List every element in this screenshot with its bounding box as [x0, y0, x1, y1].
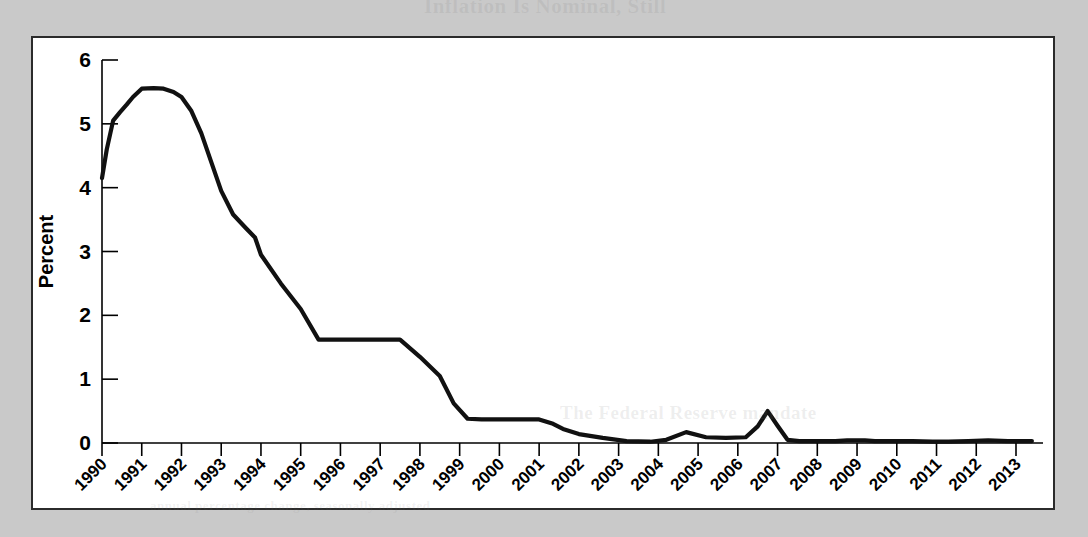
x-tick-label: 2000 — [468, 454, 508, 494]
y-axis: 0123456 — [79, 48, 118, 454]
x-tick-label: 1991 — [110, 454, 150, 494]
x-tick-label: 1998 — [389, 454, 429, 494]
chart-panel: 0123456 19901991199219931994199519961997… — [31, 36, 1055, 510]
x-tick-label: 1992 — [150, 454, 190, 494]
x-tick-label: 2010 — [865, 454, 905, 494]
x-tick-label: 1995 — [269, 454, 309, 494]
x-tick-label: 2012 — [945, 454, 985, 494]
x-tick-label: 2003 — [587, 454, 627, 494]
y-axis-title: Percent — [35, 214, 57, 288]
x-tick-label: 2007 — [746, 454, 786, 494]
y-tick-label: 0 — [79, 431, 91, 454]
line-chart: 0123456 19901991199219931994199519961997… — [33, 38, 1057, 512]
x-tick-label: 2009 — [826, 454, 866, 494]
y-tick-label: 1 — [79, 367, 91, 390]
x-tick-label: 2011 — [906, 454, 946, 494]
x-tick-label: 2002 — [548, 454, 588, 494]
bleed-title-text: Inflation Is Nominal, Still — [424, 0, 666, 19]
x-tick-label: 2004 — [627, 454, 668, 495]
y-tick-label: 5 — [79, 112, 91, 135]
y-axis-title-text: Percent — [35, 214, 57, 288]
x-tick-label: 1990 — [71, 454, 111, 494]
x-tick-label: 2005 — [667, 454, 707, 494]
x-tick-label: 1996 — [309, 454, 349, 494]
x-tick-label: 2001 — [508, 454, 548, 494]
x-axis: 1990199119921993199419951996199719981999… — [71, 443, 1043, 495]
x-tick-label: 1993 — [190, 454, 230, 494]
y-tick-label: 2 — [79, 303, 91, 326]
y-tick-label: 4 — [79, 176, 91, 199]
x-tick-label: 2006 — [706, 454, 746, 494]
x-tick-label: 2013 — [985, 454, 1025, 494]
x-tick-label: 1997 — [349, 454, 389, 494]
data-series-line — [102, 88, 1032, 442]
y-tick-label: 3 — [79, 240, 91, 263]
x-tick-label: 2008 — [786, 454, 826, 494]
x-tick-label: 1994 — [230, 454, 271, 495]
x-tick-label: 1999 — [428, 454, 468, 494]
y-tick-label: 6 — [79, 48, 91, 71]
chart-svg: 0123456 19901991199219931994199519961997… — [33, 38, 1057, 512]
